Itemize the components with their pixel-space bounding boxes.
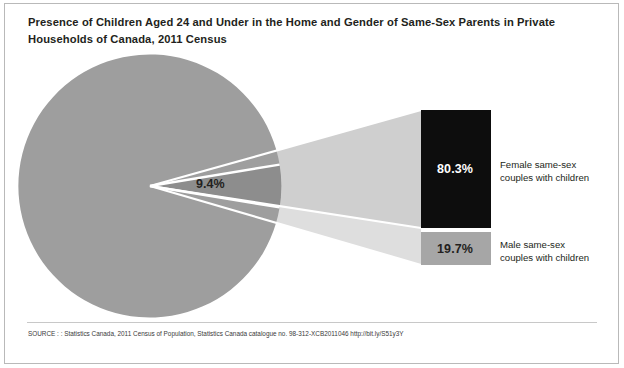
bar-label-female: Female same-sex couples with children (500, 158, 615, 184)
bar-value-male: 19.7% (437, 242, 473, 256)
source-note: SOURCE : : Statistics Canada, 2011 Censu… (28, 329, 603, 338)
pie-slice-value-label: 9.4% (196, 177, 225, 191)
source-divider (27, 322, 597, 323)
bar-value-female: 80.3% (437, 162, 473, 176)
bar-label-female-line1: Female same-sex (500, 158, 615, 171)
bar-label-male-line2: couples with children (500, 251, 615, 264)
bar-label-male-line1: Male same-sex (500, 238, 615, 251)
chart-graphic (0, 0, 624, 368)
bar-label-female-line2: couples with children (500, 171, 615, 184)
figure-container: Presence of Children Aged 24 and Under i… (0, 0, 624, 368)
bar-label-male: Male same-sex couples with children (500, 238, 615, 264)
